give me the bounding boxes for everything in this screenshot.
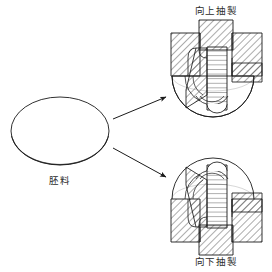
upper-punch-block [199,20,233,50]
upward-drawing-assembly: 向上抽製 [171,5,262,117]
right-die-shelf [232,63,262,82]
arrow-to-upward [113,97,166,119]
right-die-shelf-lower [232,193,262,212]
upward-draw-label: 向上抽製 [195,5,237,16]
drawn-cup-wall-lower [207,165,227,228]
arrows-group [113,97,166,177]
arrow-to-downward [113,148,166,177]
lower-punch-block [199,225,233,255]
diagram-canvas: 胚料 向上抽製 [0,0,272,272]
blank-group: 胚料 [11,97,109,186]
downward-drawing-assembly: 向下抽製 [171,158,262,267]
downward-draw-label: 向下抽製 [195,256,237,267]
drawn-cup-wall [207,47,227,110]
deep-drawing-diagram: 胚料 向上抽製 [0,0,272,272]
blank-label: 胚料 [49,175,70,186]
